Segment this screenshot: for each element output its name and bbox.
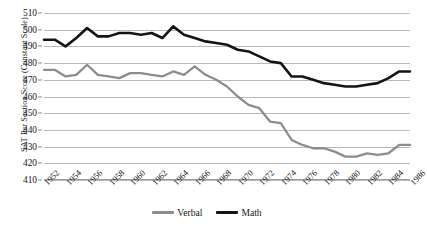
y-axis-tick-label: 430 <box>23 142 37 152</box>
legend-item-math[interactable]: Math <box>216 207 261 218</box>
y-axis-tick-labels: 410420430440450460470480490500510 <box>0 13 42 180</box>
y-axis-tick-mark <box>38 96 42 97</box>
y-axis-tick-mark <box>38 63 42 64</box>
x-axis-tick-label: 1986 <box>408 168 427 187</box>
y-axis-tick-label: 420 <box>23 158 37 168</box>
y-axis-tick-label: 510 <box>23 8 37 18</box>
y-axis-tick-mark <box>38 163 42 164</box>
y-axis-tick-label: 410 <box>23 175 37 185</box>
y-axis-tick-label: 440 <box>23 125 37 135</box>
series-container <box>44 13 410 180</box>
series-line-math <box>44 26 410 86</box>
legend-swatch-math <box>216 211 238 214</box>
y-axis-tick-label: 460 <box>23 92 37 102</box>
y-axis-tick-label: 450 <box>23 108 37 118</box>
plot-area <box>44 13 410 180</box>
series-line-verbal <box>44 65 410 157</box>
y-axis-tick-mark <box>38 13 42 14</box>
legend-label: Verbal <box>177 207 202 218</box>
y-axis-tick-label: 470 <box>23 75 37 85</box>
legend-swatch-verbal <box>152 211 174 214</box>
y-axis-tick-mark <box>38 129 42 130</box>
y-axis-tick-label: 480 <box>23 58 37 68</box>
y-axis-tick-label: 490 <box>23 41 37 51</box>
chart-legend: VerbalMath <box>0 207 414 218</box>
y-axis-tick-mark <box>38 29 42 30</box>
y-axis-tick-mark <box>38 79 42 80</box>
y-axis-tick-mark <box>38 46 42 47</box>
legend-item-verbal[interactable]: Verbal <box>152 207 202 218</box>
y-axis-tick-label: 500 <box>23 25 37 35</box>
legend-label: Math <box>241 207 261 218</box>
y-axis-tick-mark <box>38 146 42 147</box>
y-axis-tick-mark <box>38 113 42 114</box>
